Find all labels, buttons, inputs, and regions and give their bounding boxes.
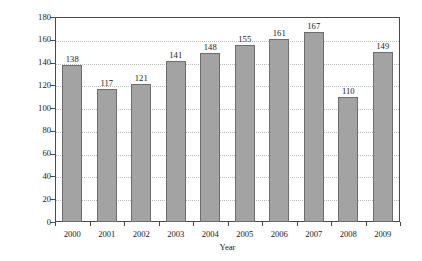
x-axis-tick-label: 2003 [159,228,194,240]
x-axis-tick-mark [90,222,91,226]
y-axis-tick-labels: 180160140120100806040200 [20,17,51,222]
bar[interactable]: 121 [131,84,151,222]
y-axis-tick-label: 80 [20,126,51,135]
bar[interactable]: 110 [338,97,358,222]
x-axis-tick-label: 2001 [90,228,125,240]
x-axis-tick-label: 2007 [297,228,332,240]
x-axis-tick-mark [55,222,56,226]
bar-value-label: 141 [169,50,182,60]
bar-value-label: 149 [376,41,389,51]
bar-slot: 148 [193,17,228,222]
x-axis-tick-mark [331,222,332,226]
y-axis-tick-label: 100 [20,104,51,113]
bar-slot: 141 [159,17,194,222]
x-axis-tick-label: 2006 [262,228,297,240]
y-axis-tick-label: 60 [20,149,51,158]
bar[interactable]: 167 [304,32,324,222]
x-axis-tick-label: 2004 [193,228,228,240]
x-axis-tick-mark [400,222,401,226]
x-axis-tick-label: 2002 [124,228,159,240]
bar[interactable]: 155 [235,45,255,222]
bar-slot: 167 [297,17,332,222]
bar-slot: 117 [90,17,125,222]
bar-value-label: 148 [204,42,217,52]
x-axis-tick-label: 2009 [366,228,401,240]
x-axis-tick-mark [124,222,125,226]
bar-slot: 110 [331,17,366,222]
bar[interactable]: 148 [200,53,220,222]
x-axis-tick-mark [193,222,194,226]
x-axis-tick-mark [366,222,367,226]
bar-value-label: 138 [66,54,79,64]
x-axis-tick-mark [159,222,160,226]
x-axis-tick-mark [262,222,263,226]
y-axis-tick-label: 20 [20,195,51,204]
y-axis-tick-label: 160 [20,35,51,44]
y-axis-tick-label: 0 [20,218,51,227]
y-axis-tick-label: 120 [20,81,51,90]
bar-value-label: 121 [135,73,148,83]
bar-value-label: 167 [307,21,320,31]
bar[interactable]: 161 [269,39,289,222]
y-axis-tick-label: 140 [20,58,51,67]
bar-slot: 121 [124,17,159,222]
bar[interactable]: 117 [97,89,117,222]
y-axis-tick-label: 180 [20,13,51,22]
x-axis-title: Year [55,241,400,253]
y-axis-tick-label: 40 [20,172,51,181]
bar-slot: 138 [55,17,90,222]
bar[interactable]: 138 [62,65,82,222]
bar-value-label: 155 [238,34,251,44]
x-axis-tick-mark [228,222,229,226]
x-axis-tick-label: 2005 [228,228,263,240]
x-axis-tick-marks [55,222,400,227]
bar-slot: 155 [228,17,263,222]
bar-value-label: 161 [273,28,286,38]
x-axis-tick-label: 2008 [331,228,366,240]
bar-slot: 161 [262,17,297,222]
bar[interactable]: 141 [166,61,186,222]
bar[interactable]: 149 [373,52,393,222]
x-axis-tick-labels: 2000200120022003200420052006200720082009 [55,228,400,240]
x-axis-tick-label: 2000 [55,228,90,240]
bar-value-label: 117 [100,78,113,88]
bar-slot: 149 [366,17,401,222]
x-axis-tick-mark [297,222,298,226]
bar-chart: % of assets under management 18016014012… [0,0,422,261]
bar-value-label: 110 [342,86,355,96]
bars-layer: 138117121141148155161167110149 [55,17,400,222]
